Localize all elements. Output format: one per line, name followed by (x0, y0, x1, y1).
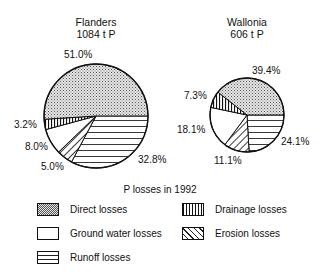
wallonia-total: 606 t P (217, 28, 277, 40)
legend-label-runoff: Runoff losses (70, 252, 130, 263)
legend-label-erosion: Erosion losses (215, 228, 280, 239)
wallonia-groundwater-label: 18.1% (177, 124, 205, 135)
flanders-erosion-label: 5.0% (41, 161, 64, 172)
flanders-total: 1084 t P (66, 28, 126, 40)
flanders-pie (44, 64, 148, 168)
vertical-lines-swatch-icon (182, 203, 204, 216)
flanders-direct-label: 51.0% (64, 49, 92, 60)
legend-item-runoff: Runoff losses (37, 251, 130, 264)
legend-label-drainage: Drainage losses (215, 204, 287, 215)
wallonia-runoff-label: 24.1% (281, 136, 309, 147)
legend-label-groundwater: Ground water losses (70, 228, 162, 239)
legend-item-drainage: Drainage losses (182, 203, 287, 216)
legend-item-erosion: Erosion losses (182, 227, 280, 240)
flanders-region: Flanders (66, 16, 126, 28)
dotted-swatch-icon (37, 203, 59, 216)
wallonia-drainage-label: 7.3% (184, 90, 207, 101)
wallonia-title: Wallonia 606 t P (217, 16, 277, 40)
wallonia-erosion-label: 11.1% (214, 155, 242, 166)
blank-swatch-icon (37, 227, 59, 240)
wallonia-pie (210, 78, 284, 152)
wallonia-direct-label: 39.4% (252, 65, 280, 76)
diagonal-lines-swatch-icon (182, 227, 204, 240)
pie-slice-direct-losses (44, 64, 148, 119)
flanders-groundwater-label: 8.0% (25, 141, 48, 152)
wallonia-region: Wallonia (217, 16, 277, 28)
legend-item-direct: Direct losses (37, 203, 127, 216)
horizontal-lines-swatch-icon (37, 251, 59, 264)
legend-title: P losses in 1992 (0, 184, 320, 195)
legend-label-direct: Direct losses (70, 204, 127, 215)
flanders-title: Flanders 1084 t P (66, 16, 126, 40)
flanders-runoff-label: 32.8% (138, 154, 166, 165)
flanders-drainage-label: 3.2% (14, 119, 37, 130)
legend-item-groundwater: Ground water losses (37, 227, 162, 240)
